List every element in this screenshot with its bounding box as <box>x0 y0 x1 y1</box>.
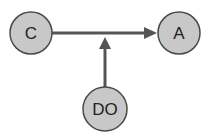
node-c: C <box>10 12 52 54</box>
node-c-label: C <box>25 24 37 43</box>
node-a: A <box>158 12 200 54</box>
edge-c-to-a-arrowhead <box>144 27 157 39</box>
node-do: DO <box>83 87 127 131</box>
node-do-label: DO <box>92 100 118 119</box>
diagram-canvas: C A DO <box>0 0 208 138</box>
node-a-label: A <box>173 24 185 43</box>
edge-do-to-path-arrowhead <box>99 37 111 49</box>
